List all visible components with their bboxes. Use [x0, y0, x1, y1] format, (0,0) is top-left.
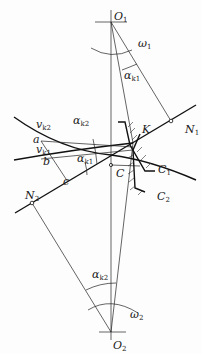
label-alpha-k2-top: αk2 — [73, 114, 89, 128]
label-omega1: ω1 — [138, 37, 151, 51]
tooth-c2-outline — [133, 134, 145, 192]
alpha-k2-arc — [93, 139, 97, 164]
label-c2: C2 — [157, 190, 170, 204]
label-vk2: vk2 — [36, 118, 51, 132]
label-c-lower: c — [63, 175, 69, 188]
label-k: K — [141, 123, 151, 136]
n1-point — [169, 119, 173, 123]
c-horizontal — [111, 165, 140, 166]
label-n2: N2 — [24, 189, 39, 203]
gear-mesh-diagram: O1 O2 C K N1 N2 a b c ω1 ω2 αk1 αk1 αk2 … — [0, 0, 202, 354]
label-omega2: ω2 — [130, 308, 143, 322]
label-n1: N1 — [184, 123, 199, 137]
omega1-arc — [91, 48, 132, 55]
label-o1: O1 — [114, 10, 128, 24]
label-c: C — [116, 167, 125, 180]
label-o2: O2 — [113, 339, 127, 353]
alpha-k2-bottom-arc — [86, 283, 116, 290]
label-alpha-k1-top: αk1 — [124, 69, 140, 83]
diagram-svg: O1 O2 C K N1 N2 a b c ω1 ω2 αk1 αk1 αk2 … — [0, 0, 202, 354]
label-c1: C1 — [158, 163, 171, 177]
label-alpha-k2-bottom: αk2 — [92, 268, 108, 282]
